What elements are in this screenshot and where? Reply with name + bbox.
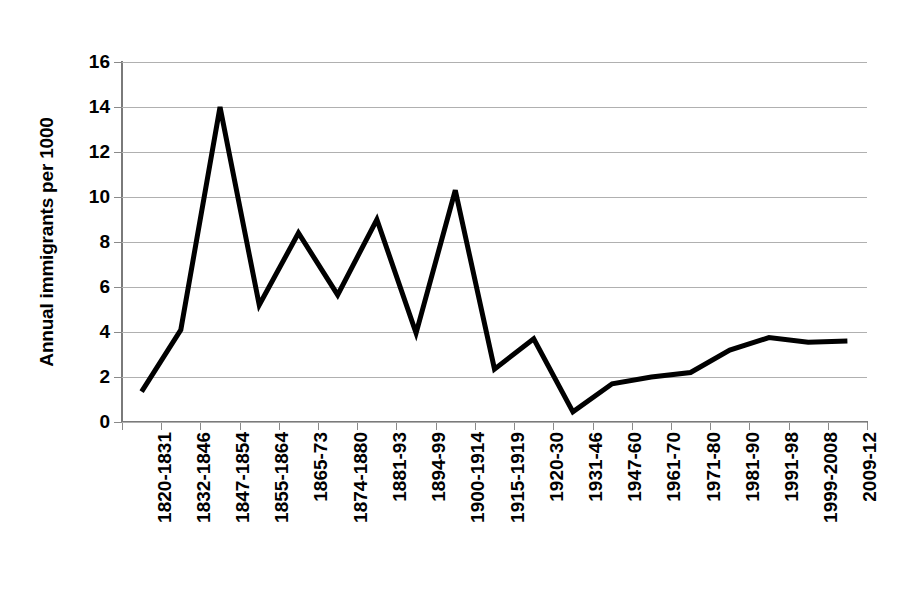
x-axis-tick-label: 1931-46 — [583, 432, 609, 582]
x-axis-tick-mark — [553, 423, 554, 430]
x-axis-tick-mark — [789, 423, 790, 430]
x-axis-tick-mark — [671, 423, 672, 430]
x-axis-tick-label: 1894-99 — [426, 432, 452, 582]
x-axis-tick-mark — [632, 423, 633, 430]
x-axis-tick-label: 1820-1831 — [152, 432, 178, 582]
x-axis-tick-label: 1832-1846 — [191, 432, 217, 582]
y-axis-tick-mark — [114, 287, 122, 288]
y-axis-tick-mark — [114, 332, 122, 333]
x-axis-tick-mark — [122, 423, 123, 430]
x-axis-tick-label: 1991-98 — [779, 432, 805, 582]
x-axis-tick-label: 1961-70 — [661, 432, 687, 582]
x-axis-tick-mark — [396, 423, 397, 430]
x-axis-tick-mark — [436, 423, 437, 430]
y-axis-tick-mark — [114, 197, 122, 198]
x-axis-tick-mark — [749, 423, 750, 430]
x-axis-tick-mark — [279, 423, 280, 430]
x-axis-tick-mark — [161, 423, 162, 430]
x-axis-tick-label: 1855-1864 — [269, 432, 295, 582]
x-axis-tick-mark — [240, 423, 241, 430]
x-axis-tick-mark — [514, 423, 515, 430]
x-axis-tick-mark — [828, 423, 829, 430]
x-axis-tick-label: 1920-30 — [544, 432, 570, 582]
x-axis-tick-label: 1865-73 — [308, 432, 334, 582]
x-axis-tick-label: 1947-60 — [622, 432, 648, 582]
x-axis-tick-label: 1874-1880 — [348, 432, 374, 582]
y-axis-tick-mark — [114, 107, 122, 108]
x-axis-tick-mark — [357, 423, 358, 430]
y-axis-tick-mark — [114, 242, 122, 243]
x-axis-tick-mark — [318, 423, 319, 430]
x-axis-tick-labels: 1820-18311832-18461847-18541855-18641865… — [0, 0, 899, 595]
x-axis-tick-label: 1981-90 — [740, 432, 766, 582]
x-axis-tick-label: 2009-12 — [857, 432, 883, 582]
y-axis-tick-mark — [114, 62, 122, 63]
immigration-line-chart: Annual immigrants per 1000 0246810121416… — [0, 0, 899, 595]
x-axis-tick-label: 1915-1919 — [505, 432, 531, 582]
y-axis-tick-mark — [114, 152, 122, 153]
x-axis-tick-label: 1971-80 — [701, 432, 727, 582]
y-axis-tick-mark — [114, 377, 122, 378]
x-axis-tick-mark — [475, 423, 476, 430]
x-axis-tick-label: 1999-2008 — [818, 432, 844, 582]
x-axis-tick-mark — [710, 423, 711, 430]
x-axis-tick-label: 1900-1914 — [465, 432, 491, 582]
x-axis-tick-label: 1881-93 — [387, 432, 413, 582]
y-axis-tick-mark — [114, 422, 122, 423]
x-axis-tick-mark — [867, 423, 868, 430]
x-axis-tick-mark — [593, 423, 594, 430]
x-axis-tick-mark — [200, 423, 201, 430]
x-axis-tick-label: 1847-1854 — [230, 432, 256, 582]
